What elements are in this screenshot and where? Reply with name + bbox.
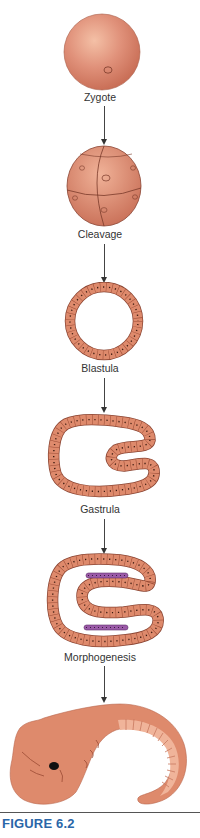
stage-label-cleavage: Cleavage bbox=[0, 228, 200, 240]
stage-label-blastula: Blastula bbox=[0, 362, 200, 374]
arrow-down-icon bbox=[104, 244, 105, 278]
zygote-illustration bbox=[0, 0, 200, 100]
arrow-down-icon bbox=[104, 378, 105, 408]
cleavage-illustration bbox=[0, 140, 200, 230]
caption-divider bbox=[0, 812, 200, 813]
arrow-down-icon bbox=[104, 106, 105, 140]
stage-label-morphogenesis: Morphogenesis bbox=[0, 651, 200, 663]
arrow-down-icon bbox=[104, 519, 105, 549]
figure-caption: FIGURE 6.2 bbox=[2, 816, 75, 831]
stage-label-gastrula: Gastrula bbox=[0, 503, 200, 515]
embryo-illustration bbox=[0, 700, 200, 812]
stage-label-zygote: Zygote bbox=[0, 91, 200, 103]
blastula-illustration bbox=[0, 282, 200, 362]
arrow-down-icon bbox=[104, 666, 105, 698]
morphogenesis-illustration bbox=[0, 552, 200, 652]
gastrula-illustration bbox=[0, 410, 200, 500]
